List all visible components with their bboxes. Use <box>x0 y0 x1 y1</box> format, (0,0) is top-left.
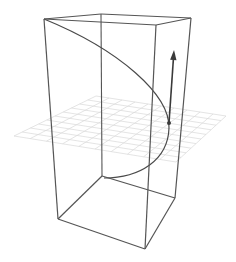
diagram-canvas <box>0 0 236 262</box>
box-edge <box>58 176 102 219</box>
spiral-curve <box>44 19 169 178</box>
box-edge <box>156 18 191 25</box>
arrow-shaft <box>169 60 173 123</box>
box-edge <box>58 219 145 249</box>
box-edge <box>101 14 191 18</box>
box-edge <box>44 19 58 219</box>
arrow-origin-point <box>167 121 171 125</box>
box-edge <box>145 198 175 249</box>
box-hidden-edges <box>101 14 102 176</box>
arrow-head <box>170 50 176 60</box>
box-edge <box>175 18 191 198</box>
grid-line <box>127 110 187 154</box>
box-edge <box>44 19 156 25</box>
grid-line <box>144 112 200 157</box>
grid-line <box>111 108 174 152</box>
ground-grid-plane <box>14 96 226 162</box>
box-edge <box>102 176 175 198</box>
box-edge <box>44 14 101 19</box>
box-edge <box>101 14 102 176</box>
